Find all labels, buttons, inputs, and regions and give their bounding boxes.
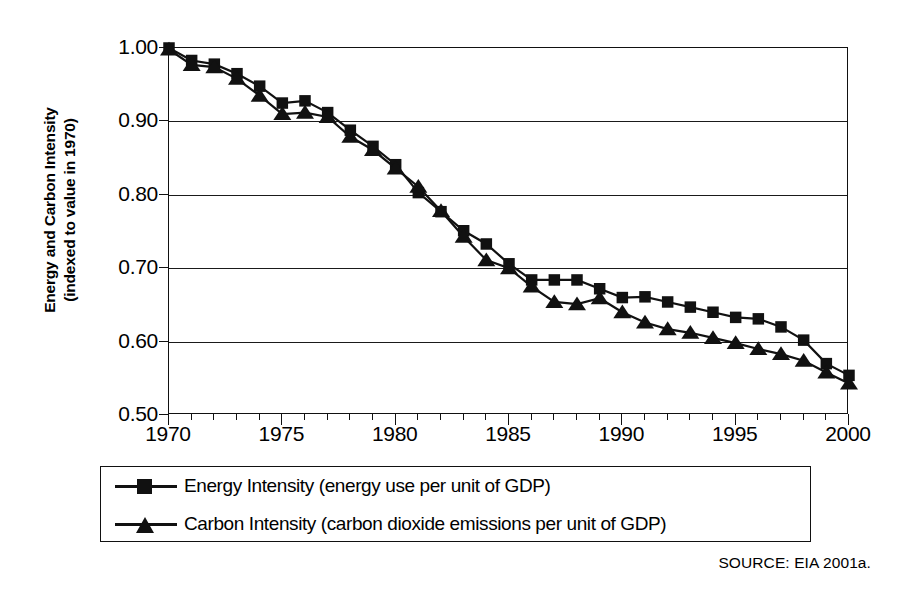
y-axis-tick-mark: [159, 267, 168, 268]
y-axis-title-line-1: Energy and Carbon Intensity: [40, 0, 60, 420]
y-axis-tick-mark: [159, 414, 168, 415]
y-axis-tick-label: 0.80: [88, 183, 158, 204]
legend-label-energy-intensity: Energy Intensity (energy use per unit of…: [184, 475, 550, 497]
x-axis-minor-tick: [191, 414, 192, 420]
square-marker-icon: [617, 292, 629, 304]
triangle-marker-icon: [840, 376, 858, 390]
x-axis-minor-tick: [440, 414, 441, 420]
square-marker-icon: [753, 313, 765, 325]
x-axis-minor-tick: [485, 414, 486, 420]
x-axis-minor-tick: [327, 414, 328, 420]
x-axis-tick-label: 1975: [236, 422, 326, 446]
y-axis-title: Energy and Carbon Intensity (indexed to …: [40, 0, 80, 420]
triangle-marker-icon: [115, 514, 177, 534]
source-note: SOURCE: EIA 2001a.: [0, 554, 871, 572]
chart-legend: Energy Intensity (energy use per unit of…: [100, 466, 811, 542]
x-axis-minor-tick: [667, 414, 668, 420]
y-axis-tick-label: 0.60: [88, 330, 158, 351]
y-axis-tick-label: 0.90: [88, 109, 158, 130]
triangle-marker-icon: [613, 304, 631, 318]
x-axis-minor-tick: [644, 414, 645, 420]
x-axis-minor-tick: [213, 414, 214, 420]
square-marker-icon: [798, 334, 810, 346]
x-axis-minor-tick: [803, 414, 804, 420]
triangle-marker-icon: [296, 105, 314, 119]
x-axis-minor-tick: [689, 414, 690, 420]
series-canvas: [169, 48, 849, 415]
square-marker-icon: [707, 306, 719, 318]
series-markers-energy-intensity: [163, 42, 855, 381]
square-marker-icon: [662, 296, 674, 308]
series-markers-carbon-intensity: [160, 42, 858, 390]
chart-figure: Energy and Carbon Intensity (indexed to …: [0, 0, 913, 605]
x-axis-minor-tick: [825, 414, 826, 420]
x-axis-tick-label: 2000: [803, 422, 893, 446]
triangle-marker-icon: [545, 294, 563, 308]
x-axis-minor-tick: [259, 414, 260, 420]
x-axis-minor-tick: [599, 414, 600, 420]
x-axis-tick-label: 1970: [123, 422, 213, 446]
legend-item-carbon-intensity[interactable]: Carbon Intensity (carbon dioxide emissio…: [101, 505, 810, 543]
square-marker-icon: [571, 274, 583, 286]
y-axis-tick-mark: [159, 341, 168, 342]
square-marker-icon: [639, 291, 651, 303]
x-axis-tick-label: 1980: [350, 422, 440, 446]
y-axis-tick-label: 0.50: [88, 403, 158, 424]
x-axis-minor-tick: [757, 414, 758, 420]
x-axis-minor-tick: [576, 414, 577, 420]
square-marker-icon: [685, 301, 697, 313]
square-marker-icon: [730, 312, 742, 324]
square-marker-icon: [549, 274, 561, 286]
x-axis-minor-tick: [236, 414, 237, 420]
x-axis-minor-tick: [780, 414, 781, 420]
x-axis-minor-tick: [531, 414, 532, 420]
x-axis-minor-tick: [349, 414, 350, 420]
y-axis-tick-mark: [159, 120, 168, 121]
plot-area: [168, 47, 848, 414]
y-axis-tick-label: 1.00: [88, 36, 158, 57]
x-axis-minor-tick: [712, 414, 713, 420]
triangle-marker-icon: [636, 315, 654, 329]
x-axis-tick-label: 1985: [463, 422, 553, 446]
x-axis-minor-tick: [372, 414, 373, 420]
triangle-marker-icon: [364, 142, 382, 156]
x-axis-minor-tick: [463, 414, 464, 420]
x-axis-minor-tick: [304, 414, 305, 420]
triangle-marker-icon: [183, 57, 201, 71]
x-axis-minor-tick: [417, 414, 418, 420]
square-marker-icon: [115, 476, 177, 496]
legend-label-carbon-intensity: Carbon Intensity (carbon dioxide emissio…: [184, 513, 666, 535]
x-axis-tick-label: 1990: [576, 422, 666, 446]
y-axis-tick-label: 0.70: [88, 256, 158, 277]
x-axis-minor-tick: [553, 414, 554, 420]
triangle-marker-icon: [591, 291, 609, 305]
legend-item-energy-intensity[interactable]: Energy Intensity (energy use per unit of…: [101, 467, 810, 505]
y-axis-title-line-2: (indexed to value in 1970): [60, 0, 80, 420]
series-line-carbon-intensity: [169, 49, 849, 383]
square-marker-icon: [481, 238, 493, 250]
series-line-energy-intensity: [169, 48, 849, 375]
x-axis-tick-label: 1995: [690, 422, 780, 446]
triangle-marker-icon: [160, 42, 178, 56]
y-axis-tick-mark: [159, 194, 168, 195]
square-marker-icon: [775, 321, 787, 333]
